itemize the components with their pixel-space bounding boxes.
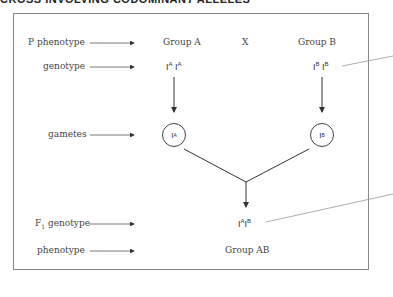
right-parent-genotype: IB IB (313, 61, 329, 72)
label-phenotype: phenotype (37, 245, 85, 255)
label-gametes: gametes (48, 129, 87, 139)
callout-line-offspring (266, 194, 393, 222)
callout-line-parent (342, 56, 393, 66)
label-p-phenotype: P phenotype (28, 37, 85, 47)
right-parent-phenotype: Group B (298, 37, 336, 47)
gamete-left: IA (162, 123, 186, 147)
label-genotype: genotype (43, 61, 85, 71)
label-f1-genotype: F1 genotype (35, 218, 90, 230)
left-parent-phenotype: Group A (163, 37, 201, 47)
cross-symbol: X (242, 37, 248, 47)
offspring-phenotype: Group AB (225, 245, 269, 255)
offspring-genotype: IAIB (238, 218, 251, 229)
left-parent-genotype: IA IA (166, 61, 182, 72)
gamete-right: IB (310, 123, 334, 147)
